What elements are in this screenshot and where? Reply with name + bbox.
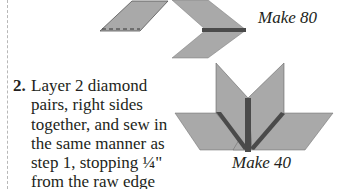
chevron-pair-figure [172,0,246,58]
diamond-fan-figure [175,63,333,152]
step-text: Layer 2 diamond pairs, right sides toget… [13,76,183,189]
instruction-step-2: 2. Layer 2 diamond pairs, right sides to… [13,76,183,189]
step-number: 2. [13,76,26,95]
caption-make-80: Make 80 [258,8,317,28]
caption-make-40: Make 40 [232,153,291,173]
single-diamond-figure [100,1,168,31]
